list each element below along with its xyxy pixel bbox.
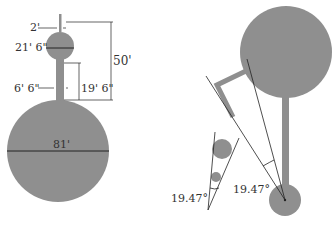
- stem-height-label: 19' 6": [81, 82, 114, 95]
- small-sphere-diameter-label: 21' 6": [15, 41, 48, 54]
- right-tilted-diagram: 19.47° 19.47°: [171, 6, 332, 216]
- antenna-width-label: 2': [30, 21, 40, 34]
- total-height-label: 50': [113, 54, 132, 68]
- antenna: [59, 14, 62, 32]
- stem-width-label: 6' 6": [14, 82, 40, 95]
- diagram-canvas: 2' 21' 6" 50' 6' 6" 19' 6" 81' 19.47°: [0, 0, 332, 225]
- main-angle-label: 19.47°: [233, 183, 270, 196]
- inset-small-circle: [211, 172, 221, 182]
- tilted-arm: [217, 70, 248, 117]
- small-sphere: [46, 32, 74, 60]
- inset-large-circle: [212, 139, 232, 159]
- left-structure-diagram: 2' 21' 6" 50' 6' 6" 19' 6" 81': [7, 14, 132, 202]
- vertical-stem: [282, 92, 289, 196]
- stem: [56, 58, 64, 103]
- inset-wedge: 19.47°: [171, 132, 239, 210]
- pivot-point: [284, 199, 286, 201]
- inset-angle-label: 19.47°: [171, 192, 208, 205]
- large-sphere-diameter-label: 81': [53, 138, 70, 151]
